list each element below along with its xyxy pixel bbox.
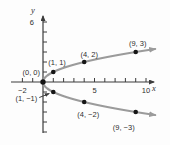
leader-arrow bbox=[39, 94, 49, 98]
x-tick-label: 5 bbox=[92, 86, 96, 95]
data-point bbox=[82, 100, 87, 105]
y-tick-label: 6 bbox=[30, 18, 34, 27]
data-point bbox=[51, 90, 56, 95]
y-axis-label: y bbox=[30, 5, 35, 15]
point-label: (9, −3) bbox=[113, 123, 135, 132]
point-label: (4, −2) bbox=[77, 110, 99, 119]
x-tick-label: 10 bbox=[142, 86, 150, 95]
point-label: (9, 3) bbox=[129, 39, 147, 48]
parabola-graph-figure: −25106xy (0, 0)(1, 1)(4, 2)(9, 3)(1, −1)… bbox=[0, 0, 170, 145]
point-label: (1, −1) bbox=[15, 94, 37, 103]
data-point bbox=[51, 70, 56, 75]
graph-canvas: −25106xy (0, 0)(1, 1)(4, 2)(9, 3)(1, −1)… bbox=[0, 0, 170, 145]
x-axis-label: x bbox=[151, 83, 156, 93]
data-point bbox=[40, 79, 45, 84]
data-point bbox=[82, 60, 87, 65]
point-label: (0, 0) bbox=[22, 68, 40, 77]
point-label: (1, 1) bbox=[48, 58, 66, 67]
data-point bbox=[133, 110, 138, 115]
data-point bbox=[133, 50, 138, 55]
point-label: (4, 2) bbox=[80, 50, 98, 59]
